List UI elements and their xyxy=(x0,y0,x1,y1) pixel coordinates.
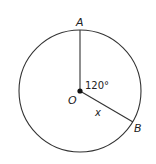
label-b: B xyxy=(134,122,142,135)
angle-label: 120° xyxy=(85,80,109,91)
circle-diagram: A B O 120° x xyxy=(0,0,156,164)
radius-ob xyxy=(80,91,133,122)
label-o: O xyxy=(68,94,77,107)
label-a: A xyxy=(75,16,84,29)
segment-label-x: x xyxy=(94,107,101,118)
center-point xyxy=(77,88,82,93)
